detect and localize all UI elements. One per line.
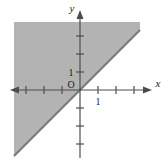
inequality-graph-figure: y x O 1 1 [0,0,164,166]
x-axis-tick-label-one: 1 [96,96,101,107]
coordinate-plane-svg: y x O 1 1 [0,0,164,166]
x-axis-right-arrow-icon [143,87,152,94]
y-axis-tick-label-one: 1 [69,67,74,78]
y-axis-label: y [69,2,75,14]
x-axis-label: x [155,77,161,89]
y-axis-top-arrow-icon [77,10,84,19]
origin-label: O [67,79,74,90]
